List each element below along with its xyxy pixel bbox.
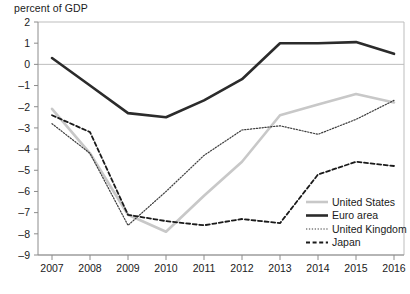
x-axis-tick-label: 2008 xyxy=(78,262,102,274)
y-axis-group: 210–1–2–3–4–5–6–7–8–9 xyxy=(18,16,38,261)
x-axis-tick-label: 2013 xyxy=(268,262,292,274)
y-axis-tick-label: 0 xyxy=(24,58,30,70)
x-axis-tick-label: 2014 xyxy=(306,262,330,274)
y-axis-tick-label: 2 xyxy=(24,16,30,28)
legend-label: United Kingdom xyxy=(332,223,407,235)
x-axis-tick-label: 2015 xyxy=(344,262,368,274)
y-axis-tick-label: –7 xyxy=(18,206,30,218)
x-axis-tick-label: 2012 xyxy=(230,262,254,274)
x-axis-tick-label: 2010 xyxy=(154,262,178,274)
legend-label: Euro area xyxy=(332,209,378,221)
x-axis-tick-label: 2011 xyxy=(193,262,216,274)
y-axis-tick-label: –6 xyxy=(18,185,30,197)
series-line xyxy=(52,42,394,117)
x-axis-tick-label: 2009 xyxy=(116,262,140,274)
legend-label: Japan xyxy=(332,236,361,248)
y-axis-tick-label: 1 xyxy=(24,37,30,49)
y-axis-tick-label: –1 xyxy=(18,79,30,91)
chart-legend: United StatesEuro areaUnited KingdomJapa… xyxy=(306,196,407,249)
x-axis-tick-label: 2016 xyxy=(382,262,406,274)
chart-plot: 210–1–2–3–4–5–6–7–8–9 200720082009201020… xyxy=(0,0,410,294)
y-axis-tick-label: –3 xyxy=(18,122,30,134)
x-axis-group: 2007200820092010201120122013201420152016 xyxy=(38,255,406,274)
x-axis-tick-label: 2007 xyxy=(40,262,64,274)
y-axis-tick-label: –4 xyxy=(18,143,30,155)
chart-container: percent of GDP 210–1–2–3–4–5–6–7–8–9 200… xyxy=(0,0,410,294)
y-axis-tick-label: –9 xyxy=(18,249,30,261)
y-axis-tick-label: –2 xyxy=(18,101,30,113)
y-axis-tick-label: –5 xyxy=(18,164,30,176)
legend-label: United States xyxy=(332,196,395,208)
y-axis-tick-label: –8 xyxy=(18,228,30,240)
